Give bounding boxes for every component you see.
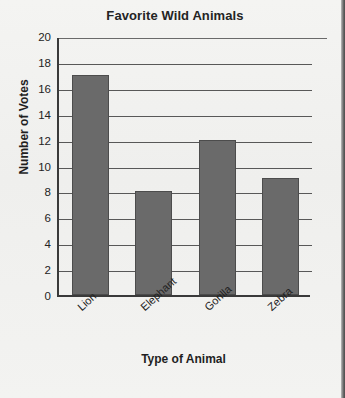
chart-title: Favorite Wild Animals xyxy=(40,8,310,23)
gridline-18 xyxy=(59,64,312,65)
gridline-20 xyxy=(59,38,327,39)
bar-lion[interactable] xyxy=(72,75,109,295)
y-tick-label-16: 16 xyxy=(15,83,51,95)
y-tick-label-20: 20 xyxy=(15,31,51,43)
y-tick-label-18: 18 xyxy=(15,57,51,69)
bar-chart: Favorite Wild Animals Number of Votes Ty… xyxy=(0,0,345,398)
bar-zebra[interactable] xyxy=(262,178,299,295)
bar-gorilla[interactable] xyxy=(199,140,236,295)
y-tick-label-2: 2 xyxy=(15,264,51,276)
y-tick-label-12: 12 xyxy=(15,135,51,147)
x-axis-title: Type of Animal xyxy=(57,352,310,366)
y-tick-label-8: 8 xyxy=(15,186,51,198)
y-tick-label-0: 0 xyxy=(15,290,51,302)
y-tick-label-6: 6 xyxy=(15,212,51,224)
y-tick-label-10: 10 xyxy=(15,161,51,173)
y-tick-label-14: 14 xyxy=(15,109,51,121)
y-tick-label-4: 4 xyxy=(15,238,51,250)
plot-area xyxy=(57,38,310,297)
